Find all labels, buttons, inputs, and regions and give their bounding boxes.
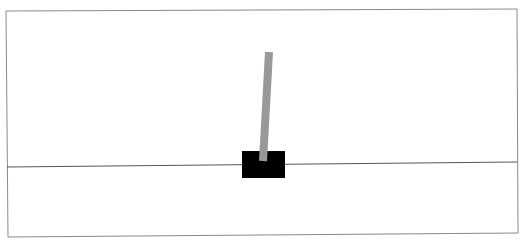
pole [263,52,269,161]
game-viewport [0,0,523,242]
cartpole-scene [0,0,523,242]
